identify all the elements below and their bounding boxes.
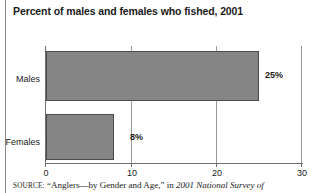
bar-females (46, 114, 114, 160)
category-axis-labels: Males Females (0, 46, 44, 163)
source-label: SOURCE: (13, 182, 45, 190)
figure-container: Percent of males and females who fished,… (0, 0, 314, 193)
source-note: SOURCE: “Anglers—by Gender and Age,” in … (13, 180, 264, 190)
x-tick-10 (131, 163, 132, 167)
bar-value-females: 8% (130, 132, 143, 142)
x-tick-label-0: 0 (43, 168, 48, 178)
x-tick-label-30: 30 (297, 168, 307, 178)
x-axis-line (45, 163, 303, 164)
source-text-italic: 2001 National Survey of (176, 180, 264, 190)
source-text-plain: “Anglers—by Gender and Age,” in (45, 180, 176, 190)
category-label-males: Males (16, 74, 40, 84)
x-tick-20 (216, 163, 217, 167)
x-tick-label-10: 10 (127, 168, 137, 178)
bar-males (46, 51, 259, 101)
x-tick-label-20: 20 (212, 168, 222, 178)
gridline-30 (301, 46, 302, 163)
bar-value-males: 25% (265, 70, 283, 80)
plot-area: 0 10 20 30 25% 8% (46, 46, 302, 163)
x-tick-30 (301, 163, 302, 167)
x-tick-0 (45, 163, 46, 167)
chart-title: Percent of males and females who fished,… (13, 5, 243, 17)
category-label-females: Females (5, 137, 40, 147)
